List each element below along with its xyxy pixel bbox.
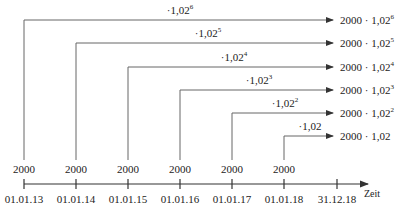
result-label-2: 2000 · 1,022 [340, 107, 394, 119]
factor-label-5: ·1,025 [195, 27, 221, 39]
date-label: 01.01.17 [213, 193, 252, 205]
deposit-label: 2000 [117, 163, 139, 175]
deposit-label: 2000 [273, 163, 295, 175]
factor-label-4: ·1,024 [221, 51, 247, 63]
factor-label-1: ·1,02 [299, 120, 322, 132]
factor-label-2: ·1,022 [272, 97, 298, 109]
axis-label: Zeit [364, 188, 380, 200]
date-label: 01.01.14 [57, 193, 96, 205]
date-label: 01.01.16 [161, 193, 200, 205]
factor-label-6: ·1,026 [167, 4, 193, 16]
deposit-label: 2000 [169, 163, 191, 175]
factor-label-3: ·1,023 [246, 74, 272, 86]
result-label-1: 2000 · 1,02 [340, 130, 390, 142]
deposit-label: 2000 [13, 163, 35, 175]
date-label: 01.01.15 [109, 193, 148, 205]
compound-interest-diagram: ·1,026 ·1,025 ·1,024 ·1,023 ·1,022 ·1,02… [0, 0, 395, 213]
date-label: 01.01.18 [265, 193, 304, 205]
date-label: 01.01.13 [5, 193, 44, 205]
result-label-5: 2000 · 1,025 [340, 37, 394, 49]
deposit-label: 2000 [65, 163, 87, 175]
result-label-4: 2000 · 1,024 [340, 61, 394, 73]
deposit-label: 2000 [221, 163, 243, 175]
result-label-3: 2000 · 1,023 [340, 84, 394, 96]
result-label-6: 2000 · 1,026 [340, 14, 394, 26]
date-label: 31.12.18 [318, 193, 357, 205]
